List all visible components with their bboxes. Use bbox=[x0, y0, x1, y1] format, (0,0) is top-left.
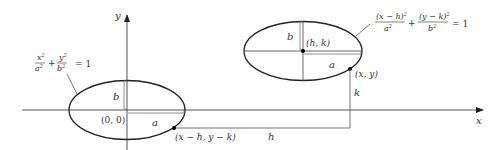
svg-text:a2: a2 bbox=[384, 23, 392, 33]
k-label: k bbox=[354, 87, 360, 98]
svg-text:(x − h)2: (x − h)2 bbox=[376, 11, 407, 21]
point-translated-label: (x − h, y − k) bbox=[175, 132, 236, 142]
point-xy-label: (x, y) bbox=[355, 69, 378, 79]
svg-text:b2: b2 bbox=[57, 63, 65, 73]
translation-guide bbox=[175, 69, 350, 128]
ellipse-translation-diagram: x y b a (0, 0) x2 a2 + y2 b2 = 1 b a (h,… bbox=[0, 0, 498, 150]
y-axis-label: y bbox=[114, 10, 121, 21]
shifted-equation-pointer bbox=[356, 24, 370, 36]
svg-text:+: + bbox=[48, 58, 56, 68]
svg-text:= 1: = 1 bbox=[75, 59, 91, 69]
svg-text:y2: y2 bbox=[58, 52, 67, 62]
h-label: h bbox=[268, 131, 274, 142]
origin-equation-pointer bbox=[67, 74, 77, 94]
origin-b-label: b bbox=[113, 91, 119, 102]
origin-a-label: a bbox=[152, 117, 158, 128]
svg-text:x2: x2 bbox=[37, 52, 45, 62]
svg-text:a2: a2 bbox=[35, 63, 43, 73]
svg-text:= 1: = 1 bbox=[452, 19, 468, 29]
shifted-a-label: a bbox=[329, 59, 335, 70]
shifted-center-label: (h, k) bbox=[306, 38, 330, 48]
point-translated bbox=[172, 126, 176, 130]
shifted-b-label: b bbox=[287, 31, 293, 42]
svg-text:b2: b2 bbox=[428, 23, 436, 33]
origin-ellipse-equation: x2 a2 + y2 b2 = 1 bbox=[35, 52, 91, 73]
shifted-ellipse-equation: (x − h)2 a2 + (y − k)2 b2 = 1 bbox=[375, 11, 468, 33]
svg-text:(y − k)2: (y − k)2 bbox=[419, 11, 450, 21]
origin-label: (0, 0) bbox=[101, 115, 125, 125]
svg-text:+: + bbox=[408, 18, 416, 28]
shifted-center-point bbox=[301, 49, 305, 53]
x-axis-label: x bbox=[476, 115, 482, 126]
